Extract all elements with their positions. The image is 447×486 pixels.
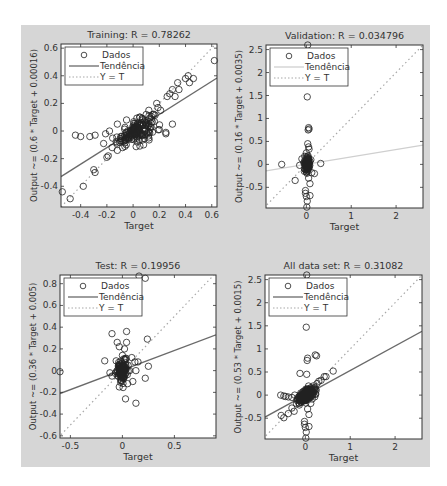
- legend-entry: Y = T: [304, 73, 330, 83]
- y-tick-label: 0.2: [43, 344, 57, 354]
- y-tick-label: 0.8: [43, 279, 58, 289]
- legend-entry: Dados: [101, 281, 130, 291]
- y-axis-label: Output ~= (0.16 * Target + 0.0035): [234, 50, 244, 203]
- legend-entry: Dados: [102, 50, 131, 60]
- y-tick-label: 0.6: [44, 43, 59, 53]
- legend-entry: Y = T: [303, 303, 329, 313]
- y-tick-label: 1: [257, 113, 263, 123]
- y-tick-label: 2.5: [248, 275, 262, 285]
- legend-entry: Tendência: [304, 62, 350, 72]
- x-axis-label: Target: [328, 452, 359, 463]
- y-tick-label: -0.4: [39, 409, 57, 419]
- x-axis-label: Target: [122, 451, 153, 462]
- x-tick-label: 0: [304, 211, 310, 221]
- test-regression-plot: Test: R = 0.19956-0.500.5-0.6-0.4-0.200.…: [0, 240, 230, 470]
- y-tick-label: 0.4: [44, 71, 59, 81]
- y-tick-label: 0: [51, 366, 57, 376]
- y-tick-label: -0.5: [244, 413, 262, 423]
- x-tick-label: 2: [393, 211, 399, 221]
- y-tick-label: 0: [257, 159, 263, 169]
- legend-entry: Y = T: [98, 303, 124, 313]
- validation-regression-plot: Validation: R = 0.034796012-0.500.511.52…: [223, 0, 447, 240]
- x-tick-label: -0.4: [72, 210, 90, 220]
- x-tick-label: 2: [392, 442, 398, 452]
- x-tick-label: 1: [347, 442, 353, 452]
- plot-title: Training: R = 0.78262: [86, 29, 191, 40]
- legend-entry: Dados: [306, 281, 335, 291]
- y-axis-label: Output ~= (0.6 * Target + 0.00016): [29, 49, 39, 202]
- x-tick-label: 1: [348, 211, 354, 221]
- x-tick-label: -0.2: [98, 210, 116, 220]
- legend-entry: Tendência: [303, 292, 349, 302]
- legend: DadosTendênciaY = T: [269, 278, 349, 316]
- y-tick-label: -0.6: [39, 431, 57, 441]
- y-tick-label: 0.6: [43, 300, 58, 310]
- x-axis-label: Target: [329, 221, 360, 232]
- y-tick-label: -0.2: [40, 154, 58, 164]
- y-tick-label: -0.5: [245, 182, 263, 192]
- y-tick-label: 1.5: [249, 91, 263, 101]
- plot-title: Test: R = 0.19956: [95, 260, 181, 271]
- y-axis-label: Output ~= (0.53 * Target + 0.0015): [233, 281, 243, 434]
- x-tick-label: 0: [130, 210, 136, 220]
- x-tick-label: 0.2: [152, 210, 166, 220]
- x-tick-label: -0.5: [62, 441, 80, 451]
- y-tick-label: 2: [256, 298, 262, 308]
- y-tick-label: 1: [256, 344, 262, 354]
- x-tick-label: 0: [120, 441, 126, 451]
- x-axis-label: Target: [123, 220, 154, 231]
- x-tick-label: 0.4: [178, 210, 193, 220]
- y-tick-label: 2.5: [249, 45, 263, 55]
- y-tick-label: 0.5: [249, 136, 263, 146]
- legend: DadosTendênciaY = T: [270, 48, 350, 86]
- y-tick-label: 2: [257, 68, 263, 78]
- training-regression-plot: Training: R = 0.78262-0.4-0.200.20.40.6-…: [0, 0, 230, 240]
- plot-title: Validation: R = 0.034796: [285, 30, 404, 41]
- y-tick-label: 0.2: [44, 98, 58, 108]
- legend-entry: Tendência: [99, 61, 145, 71]
- y-tick-label: -0.4: [40, 181, 58, 191]
- x-tick-label: 0.5: [167, 441, 181, 451]
- y-tick-label: 0.4: [43, 322, 58, 332]
- y-tick-label: 0: [256, 390, 262, 400]
- y-tick-label: -0.2: [39, 387, 57, 397]
- y-axis-label: Output ~= (0.36 * Target + 0.005): [28, 283, 38, 431]
- legend-entry: Y = T: [99, 72, 125, 82]
- y-tick-label: 0: [52, 126, 58, 136]
- x-tick-label: 0.6: [205, 210, 220, 220]
- legend: DadosTendênciaY = T: [64, 278, 144, 316]
- legend-entry: Tendência: [98, 292, 144, 302]
- y-tick-label: 0.5: [248, 367, 262, 377]
- legend-entry: Dados: [307, 51, 336, 61]
- x-tick-label: 0: [303, 442, 309, 452]
- plot-title: All data set: R = 0.31082: [284, 260, 404, 271]
- all-data-regression-plot: All data set: R = 0.31082012-0.500.511.5…: [223, 240, 447, 470]
- y-tick-label: 1.5: [248, 321, 262, 331]
- legend: DadosTendênciaY = T: [65, 47, 145, 85]
